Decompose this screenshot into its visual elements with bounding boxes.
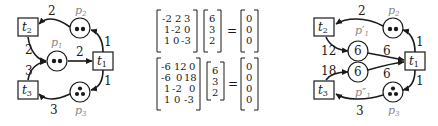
svg-text:1: 1	[164, 24, 170, 35]
svg-text:0: 0	[184, 24, 190, 35]
weight-t2-p1a: 12	[321, 44, 336, 58]
token	[58, 59, 62, 63]
arc-t1-p2	[91, 30, 103, 52]
svg-text:p′1: p′1	[355, 24, 369, 38]
svg-text:1: 1	[164, 94, 170, 105]
place-p3: p3	[70, 82, 90, 118]
svg-text:1: 1	[164, 35, 170, 46]
token	[394, 27, 398, 31]
place-p1-double-prime: 6 p″1	[348, 62, 371, 100]
place-p2: p2	[70, 4, 90, 38]
svg-text:0: 0	[246, 72, 252, 83]
weight-t1-p3: 1	[104, 74, 112, 88]
svg-text:3: 3	[209, 24, 215, 35]
svg-text:0: 0	[173, 35, 179, 46]
token	[78, 86, 82, 90]
token	[81, 27, 85, 31]
weight-t3-p1b: 18	[321, 64, 336, 78]
svg-text:-2: -2	[162, 13, 172, 24]
arc-p2-t2	[39, 19, 70, 27]
svg-text:0: 0	[246, 94, 252, 105]
equation-2: -6 12 0 -6 0 18 1 -2 0 1 0 -3 6 3 2 = 0 …	[157, 58, 258, 110]
svg-text:18: 18	[184, 72, 197, 83]
svg-text:p″1: p″1	[355, 86, 371, 100]
weight-p3-t3: 3	[50, 103, 58, 117]
arc-t1-p3	[91, 70, 103, 90]
matrix-1: -2 2 3 1 -2 0 1 0 -3	[162, 13, 191, 46]
svg-text:-6: -6	[161, 72, 171, 83]
svg-text:-3: -3	[181, 35, 191, 46]
weight-p3-t3: 3	[356, 104, 364, 118]
equals-sign: =	[227, 24, 237, 38]
weight-t2-p1: 2	[25, 43, 33, 57]
svg-text:0: 0	[246, 13, 252, 24]
transition-t1: t1	[93, 52, 113, 70]
transition-t2: t2	[18, 18, 38, 36]
svg-text:p3: p3	[388, 104, 400, 118]
svg-text:-2: -2	[172, 83, 182, 94]
arc-t1-p3	[403, 70, 415, 90]
svg-text:-3: -3	[184, 94, 194, 105]
weight-p1b-t1: 6	[383, 67, 391, 81]
weight-t1-p2: 1	[104, 35, 112, 49]
vector-2: 6 3 2	[212, 65, 218, 98]
svg-text:12: 12	[174, 61, 187, 72]
svg-text:p2: p2	[75, 4, 87, 18]
transition-t1: t1	[405, 52, 425, 70]
place-p2: p2	[383, 4, 403, 38]
matrix-2: -6 12 0 -6 0 18 1 -2 0 1 0 -3	[161, 61, 197, 105]
token	[391, 86, 395, 90]
weight-p1a-t1: 6	[383, 44, 391, 58]
svg-text:0: 0	[246, 83, 252, 94]
result-1: 0 0 0	[246, 13, 252, 46]
equals-sign: =	[228, 77, 238, 91]
svg-text:0: 0	[189, 83, 195, 94]
svg-text:0: 0	[176, 72, 182, 83]
token	[388, 92, 392, 96]
weight-p2-t2: 2	[48, 4, 56, 18]
svg-text:p3: p3	[75, 104, 87, 118]
svg-text:p2: p2	[388, 4, 400, 18]
token	[81, 92, 85, 96]
transition-t3: t3	[314, 81, 334, 99]
svg-text:0: 0	[246, 24, 252, 35]
svg-text:0: 0	[174, 94, 180, 105]
result-2: 0 0 0 0	[246, 61, 252, 105]
petri-net-figure: t2 t1 t3 p2 p1 p3	[0, 0, 438, 126]
token	[388, 27, 392, 31]
equation-1: -2 2 3 1 -2 0 1 0 -3 6 3 2 = 0 0 0	[157, 10, 258, 52]
transition-t2: t2	[314, 18, 334, 36]
weight-t1-p2: 1	[416, 35, 424, 49]
svg-text:2: 2	[209, 35, 215, 46]
svg-text:6: 6	[212, 65, 218, 76]
svg-text:6: 6	[354, 65, 362, 79]
weight-p2-t2: 2	[358, 4, 366, 18]
left-petri-net: t2 t1 t3 p2 p1 p3	[18, 4, 113, 118]
arc-t1-p2	[403, 30, 415, 52]
token	[75, 92, 79, 96]
token	[52, 59, 56, 63]
token	[75, 27, 79, 31]
svg-text:0: 0	[189, 61, 195, 72]
place-p1-prime: 6 p′1	[348, 24, 369, 61]
svg-text:0: 0	[246, 61, 252, 72]
svg-text:2: 2	[175, 13, 181, 24]
svg-text:0: 0	[246, 35, 252, 46]
svg-text:2: 2	[212, 87, 218, 98]
token	[394, 92, 398, 96]
svg-text:1: 1	[164, 83, 170, 94]
svg-text:6: 6	[354, 44, 362, 58]
weight-p1-t1: 2	[76, 45, 84, 59]
svg-text:-6: -6	[161, 61, 171, 72]
svg-text:p1: p1	[51, 36, 63, 50]
svg-text:6: 6	[209, 13, 215, 24]
right-petri-net: t2 t1 t3 p2 6 p′1 6 p″1	[314, 4, 425, 118]
vector-1: 6 3 2	[209, 13, 215, 46]
arc-p3-t3	[39, 94, 70, 99]
svg-text:-2: -2	[171, 24, 181, 35]
transition-t3: t3	[18, 81, 38, 99]
svg-text:3: 3	[212, 76, 218, 87]
weight-t1-p3: 1	[416, 74, 424, 88]
place-p1: p1	[47, 36, 67, 71]
svg-text:3: 3	[184, 13, 190, 24]
